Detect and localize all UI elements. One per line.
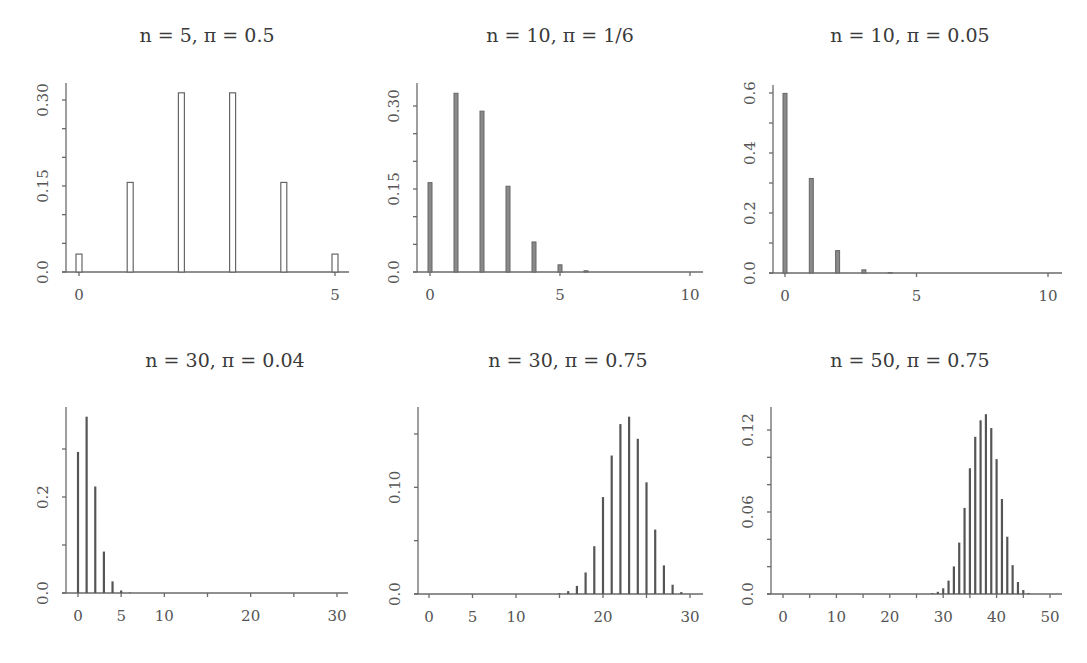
x-tick-label: 50 bbox=[1040, 608, 1059, 626]
x-tick-label: 0 bbox=[778, 608, 788, 626]
bar bbox=[480, 111, 484, 272]
x-tick-label: 30 bbox=[934, 608, 953, 626]
bar bbox=[178, 93, 184, 272]
bars bbox=[428, 93, 588, 272]
axes: 0.00.150.300510 bbox=[385, 83, 703, 304]
y-tick-label: 0.15 bbox=[34, 169, 52, 202]
y-tick-label: 0.10 bbox=[386, 471, 404, 504]
bar bbox=[230, 93, 236, 272]
x-tick-label: 0 bbox=[74, 286, 84, 304]
y-tick-label: 0.15 bbox=[385, 172, 403, 205]
panel-title: n = 50, π = 0.75 bbox=[830, 349, 989, 371]
y-tick-label: 0.12 bbox=[739, 413, 757, 446]
y-tick-label: 0.2 bbox=[741, 201, 759, 225]
axes: 0.00.20.40.60510 bbox=[741, 81, 1062, 305]
bars bbox=[783, 93, 892, 273]
x-tick-label: 0 bbox=[425, 286, 435, 304]
bar bbox=[809, 178, 813, 273]
x-tick-label: 30 bbox=[680, 608, 699, 626]
axes: 0.00.205102030 bbox=[34, 407, 348, 625]
panel-title: n = 5, π = 0.5 bbox=[139, 24, 274, 46]
bars bbox=[560, 417, 682, 594]
bar bbox=[428, 183, 432, 272]
x-tick-label: 0 bbox=[780, 287, 790, 305]
y-tick-label: 0.0 bbox=[739, 582, 757, 606]
bar bbox=[783, 93, 787, 273]
panel-title: n = 30, π = 0.04 bbox=[145, 349, 304, 371]
x-tick-label: 0 bbox=[73, 607, 83, 625]
bar bbox=[506, 186, 510, 272]
x-tick-label: 10 bbox=[827, 608, 846, 626]
bar bbox=[836, 251, 840, 273]
y-tick-label: 0.0 bbox=[386, 582, 404, 606]
y-tick-label: 0.0 bbox=[34, 581, 52, 605]
panel-title: n = 30, π = 0.75 bbox=[488, 349, 647, 371]
y-tick-label: 0.0 bbox=[34, 260, 52, 284]
bar bbox=[127, 182, 133, 272]
bar bbox=[862, 270, 866, 273]
y-tick-label: 0.0 bbox=[741, 261, 759, 285]
x-tick-label: 10 bbox=[680, 286, 699, 304]
panel-n5-pi05: n = 5, π = 0.5 0.00.150.3005 bbox=[34, 24, 349, 304]
y-tick-label: 0.4 bbox=[741, 141, 759, 165]
panel-n50-pi075: n = 50, π = 0.75 0.00.060.1201020304050 bbox=[739, 349, 1062, 626]
bar bbox=[558, 265, 562, 272]
x-tick-label: 5 bbox=[555, 286, 565, 304]
x-tick-label: 5 bbox=[468, 608, 478, 626]
y-tick-label: 0.0 bbox=[385, 260, 403, 284]
bar bbox=[76, 254, 82, 272]
panel-n10-pi005: n = 10, π = 0.05 0.00.20.40.60510 bbox=[741, 24, 1062, 305]
bar bbox=[532, 242, 536, 272]
bar bbox=[281, 182, 287, 272]
x-tick-label: 10 bbox=[1038, 287, 1057, 305]
bar bbox=[454, 93, 458, 272]
y-tick-label: 0.30 bbox=[34, 83, 52, 116]
y-tick-label: 0.6 bbox=[741, 81, 759, 105]
x-tick-label: 5 bbox=[912, 287, 922, 305]
x-tick-label: 40 bbox=[987, 608, 1006, 626]
x-tick-label: 30 bbox=[327, 607, 346, 625]
bar bbox=[332, 254, 338, 272]
panel-n10-pi1-6: n = 10, π = 1/6 0.00.150.300510 bbox=[385, 24, 703, 304]
x-tick-label: 10 bbox=[506, 608, 525, 626]
panel-title: n = 10, π = 1/6 bbox=[486, 24, 634, 46]
x-tick-label: 0 bbox=[424, 608, 434, 626]
x-tick-label: 5 bbox=[116, 607, 126, 625]
x-tick-label: 5 bbox=[330, 286, 340, 304]
binomial-distribution-figure: n = 5, π = 0.5 0.00.150.3005 n = 10, π =… bbox=[0, 0, 1087, 663]
y-tick-label: 0.06 bbox=[739, 495, 757, 528]
bar bbox=[584, 271, 588, 272]
x-tick-label: 20 bbox=[880, 608, 899, 626]
panel-n30-pi004: n = 30, π = 0.04 0.00.205102030 bbox=[34, 349, 348, 625]
bars bbox=[933, 414, 1029, 594]
x-tick-label: 20 bbox=[593, 608, 612, 626]
x-tick-label: 20 bbox=[241, 607, 260, 625]
panel-n30-pi075: n = 30, π = 0.75 0.00.1005102030 bbox=[386, 349, 703, 626]
panel-title: n = 10, π = 0.05 bbox=[830, 24, 989, 46]
y-tick-label: 0.30 bbox=[385, 89, 403, 122]
y-tick-label: 0.2 bbox=[34, 485, 52, 509]
bars bbox=[78, 417, 130, 593]
x-tick-label: 10 bbox=[155, 607, 174, 625]
bars bbox=[76, 93, 338, 272]
